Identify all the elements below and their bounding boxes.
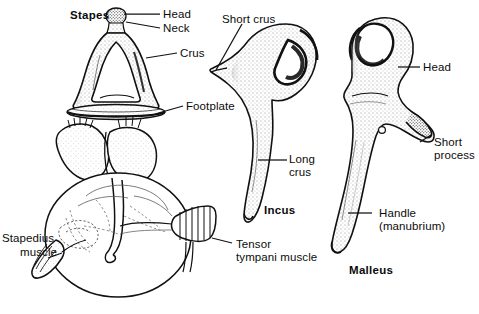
malleus-handle-label-line1: Handle	[379, 207, 416, 220]
stapes-bone	[67, 8, 165, 120]
tensor-tympani-label-line1: Tensor	[236, 238, 271, 251]
tensor-tympani-label-line2: tympani muscle	[236, 251, 317, 264]
stapes-neck-label: Neck	[163, 22, 190, 35]
incus-title: Incus	[264, 204, 296, 217]
ossicles-illustration	[0, 0, 479, 314]
incus-short-crus-label: Short crus	[222, 13, 275, 26]
incus-bone	[210, 20, 317, 222]
malleus-head-label: Head	[423, 61, 451, 74]
stapedius-muscle-label-line1: Stapedius	[2, 232, 54, 245]
malleus-handle-label-line2: (manubrium)	[379, 220, 445, 233]
malleus-title: Malleus	[349, 264, 393, 277]
malleus-short-process-label-line1: Short	[434, 136, 462, 149]
tympanic-membrane-assembly	[32, 117, 216, 297]
stapes-crus-label: Crus	[180, 47, 205, 60]
malleus-short-process-label-line2: process	[434, 149, 475, 162]
leader-neck	[126, 22, 160, 28]
incus-long-crus-label-line1: Long	[289, 153, 315, 166]
stapes-head-label: Head	[163, 8, 191, 21]
stapes-footplate-label: Footplate	[186, 100, 235, 113]
stapes-title: Stapes	[70, 9, 110, 22]
leader-crus	[146, 53, 177, 58]
incus-long-crus-label-line2: crus	[289, 166, 311, 179]
leader-tensor-tympani	[212, 238, 232, 243]
ossicles-figure: Stapes Head Neck Crus Footplate Short cr…	[0, 0, 479, 314]
stapedius-muscle-label-line2: muscle	[20, 246, 57, 259]
